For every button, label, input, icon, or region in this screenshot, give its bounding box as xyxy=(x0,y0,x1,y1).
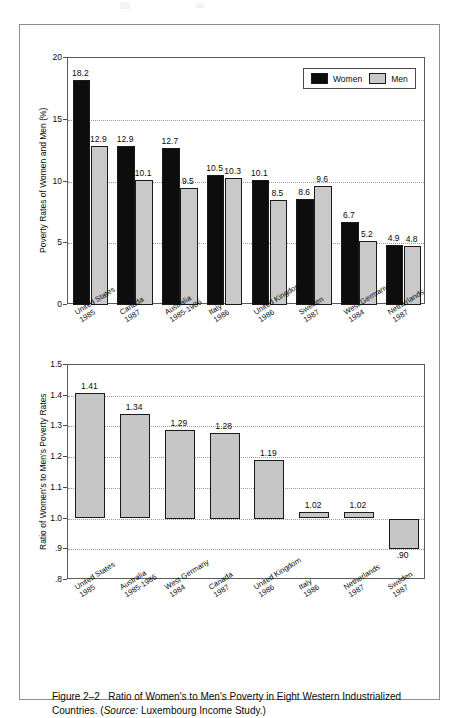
y-tick-mark-bottom xyxy=(63,579,67,580)
bar-value-men: 10.3 xyxy=(224,166,241,176)
plot-area-bottom xyxy=(67,364,425,579)
y-tick-label-bottom: 1.5 xyxy=(41,359,62,369)
bar-value-ratio: 1.28 xyxy=(215,421,232,431)
bar-ratio xyxy=(165,430,195,519)
y-tick-mark-bottom xyxy=(63,456,67,457)
bar-value-men: 5.2 xyxy=(361,229,373,239)
y-tick-mark-top xyxy=(63,181,67,182)
bar-ratio xyxy=(344,512,374,518)
bar-value-women: 8.6 xyxy=(298,187,310,197)
bar-ratio xyxy=(389,519,419,550)
y-tick-label-top: 5 xyxy=(41,237,62,247)
bar-women xyxy=(73,80,91,305)
scan-artifact xyxy=(196,3,204,8)
caption-figure-number: Figure 2–2 xyxy=(52,691,100,702)
legend-label-women: Women xyxy=(333,74,362,84)
y-tick-mark-bottom xyxy=(63,518,67,519)
bar-value-ratio: 1.41 xyxy=(81,381,98,391)
caption-source-label: Source: xyxy=(104,705,138,716)
y-tick-mark-bottom xyxy=(63,395,67,396)
y-tick-label-bottom: 1.0 xyxy=(41,513,62,523)
bar-men xyxy=(314,186,332,305)
y-tick-label-bottom: 1.1 xyxy=(41,482,62,492)
grid-line-bottom xyxy=(68,549,424,550)
bar-value-women: 4.9 xyxy=(388,233,400,243)
scan-artifact xyxy=(120,2,130,9)
y-tick-mark-top xyxy=(63,242,67,243)
bar-value-women: 12.7 xyxy=(162,136,179,146)
bar-ratio xyxy=(120,414,150,518)
chart-poverty-rates: Poverty Rates of Women and Men (%) 05101… xyxy=(20,25,439,355)
bar-ratio xyxy=(254,460,284,518)
figure-caption: Figure 2–2 Ratio of Women's to Men's Pov… xyxy=(52,690,447,718)
bar-women xyxy=(162,148,180,305)
y-tick-mark-bottom xyxy=(63,364,67,365)
plot-area-top xyxy=(67,57,425,304)
y-tick-mark-top xyxy=(63,57,67,58)
grid-line-bottom xyxy=(68,396,424,397)
bar-ratio xyxy=(75,393,105,519)
grid-line-top xyxy=(68,120,424,121)
y-tick-label-bottom: 1.4 xyxy=(41,390,62,400)
y-tick-label-bottom: 1.3 xyxy=(41,420,62,430)
bar-value-women: 18.2 xyxy=(72,68,89,78)
bar-value-ratio: 1.02 xyxy=(305,500,322,510)
bar-value-women: 6.7 xyxy=(343,210,355,220)
bar-value-ratio: 1.34 xyxy=(126,402,143,412)
figure-frame: Poverty Rates of Women and Men (%) 05101… xyxy=(19,24,440,700)
y-tick-label-top: 15 xyxy=(41,114,62,124)
bar-men xyxy=(225,178,243,305)
legend-item-women: Women xyxy=(311,73,362,84)
bar-value-women: 10.5 xyxy=(206,163,223,173)
bar-value-men: 10.1 xyxy=(135,168,152,178)
bar-value-women: 12.9 xyxy=(117,134,134,144)
bar-men xyxy=(180,188,198,305)
legend-swatch-men xyxy=(369,73,386,84)
legend-label-men: Men xyxy=(391,74,408,84)
legend-top: WomenMen xyxy=(303,68,416,89)
y-tick-label-top: 20 xyxy=(41,52,62,62)
grid-line-bottom xyxy=(68,519,424,520)
y-tick-mark-bottom xyxy=(63,425,67,426)
bar-value-men: 9.6 xyxy=(316,174,328,184)
bar-women xyxy=(117,146,135,305)
bar-value-men: 12.9 xyxy=(90,134,107,144)
bar-men xyxy=(135,180,153,305)
bar-ratio xyxy=(210,433,240,519)
y-tick-mark-bottom xyxy=(63,487,67,488)
y-tick-mark-top xyxy=(63,304,67,305)
bar-men xyxy=(91,146,109,305)
bar-value-ratio: 1.02 xyxy=(350,500,367,510)
y-tick-mark-top xyxy=(63,119,67,120)
y-axis-title-bottom: Ratio of Women's to Men's Poverty Rates xyxy=(38,393,48,550)
bar-value-ratio: 1.19 xyxy=(260,448,277,458)
bar-women xyxy=(207,175,225,305)
legend-item-men: Men xyxy=(369,73,408,84)
bar-value-women: 10.1 xyxy=(251,168,268,178)
y-tick-label-bottom: .9 xyxy=(41,543,62,553)
y-tick-label-top: 10 xyxy=(41,176,62,186)
bar-value-ratio: 1.29 xyxy=(171,418,188,428)
bar-value-men: 4.8 xyxy=(406,234,418,244)
bar-value-men: 8.5 xyxy=(271,188,283,198)
y-tick-label-top: 0 xyxy=(41,299,62,309)
bar-value-ratio: .90 xyxy=(397,550,409,560)
y-tick-mark-bottom xyxy=(63,548,67,549)
chart-poverty-ratio: Ratio of Women's to Men's Poverty Rates … xyxy=(20,340,439,655)
legend-swatch-women xyxy=(311,73,328,84)
figure-page: Poverty Rates of Women and Men (%) 05101… xyxy=(0,0,457,718)
bar-ratio xyxy=(299,512,329,518)
bar-value-men: 9.5 xyxy=(182,176,194,186)
y-tick-label-bottom: .8 xyxy=(41,574,62,584)
bar-women xyxy=(341,222,359,305)
bar-women xyxy=(252,180,270,305)
caption-source-value: Luxembourg Income Study.) xyxy=(138,705,266,716)
y-tick-label-bottom: 1.2 xyxy=(41,451,62,461)
